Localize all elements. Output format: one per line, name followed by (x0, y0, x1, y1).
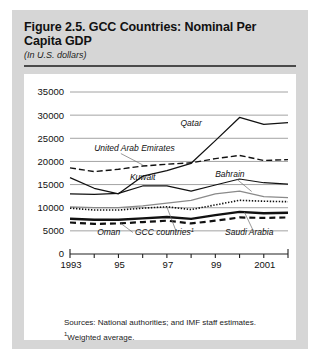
series-label: Kuwait (130, 172, 156, 182)
series-label: GCC countries1 (135, 227, 194, 237)
figure-sources: Sources: National authorities; and IMF s… (64, 318, 300, 343)
series-label: Oman (97, 227, 120, 237)
y-axis-tick-label: 20000 (38, 156, 64, 167)
y-axis-tick-label: 30000 (38, 110, 64, 121)
figure-subtitle: (In U.S. dollars) (24, 50, 296, 61)
sources-line-2: 1Weighted average. (64, 329, 300, 343)
x-axis-tick-label: 1993 (60, 259, 81, 270)
y-axis-tick-label: 25000 (38, 133, 64, 144)
label-leader-line (237, 179, 252, 191)
title-divider (24, 65, 296, 67)
y-axis-tick-label: 10000 (38, 202, 64, 213)
series-line (70, 179, 288, 194)
series-label: Bahrain (215, 169, 245, 179)
y-axis-tick-label: 15000 (38, 179, 64, 190)
x-axis-tick-label: 97 (163, 259, 174, 270)
y-axis-tick-label: 0 (59, 248, 64, 259)
series-label: Saudi Arabia (225, 227, 274, 237)
line-chart: 0500010000150002000025000300003500019939… (24, 74, 296, 340)
figure-card-inner: Figure 2.5. GCC Countries: Nominal Per C… (12, 10, 308, 349)
x-axis-tick-label: 99 (211, 259, 222, 270)
series-label: Qatar (180, 118, 202, 128)
y-axis-tick-label: 5000 (43, 225, 64, 236)
sources-line-1: Sources: National authorities; and IMF s… (64, 318, 300, 329)
y-axis-tick-label: 35000 (38, 86, 64, 97)
figure-card: Figure 2.5. GCC Countries: Nominal Per C… (12, 10, 308, 349)
x-axis-tick-label: 95 (114, 259, 125, 270)
series-line (70, 155, 288, 171)
label-leader-line (121, 154, 143, 165)
footnote-text: Weighted average. (67, 332, 134, 341)
figure-title: Figure 2.5. GCC Countries: Nominal Per C… (24, 20, 296, 48)
x-axis-tick-label: 2001 (254, 259, 275, 270)
series-line (70, 117, 288, 193)
chart-panel: 0500010000150002000025000300003500019939… (24, 74, 296, 340)
series-label: United Arab Emirates (94, 143, 175, 153)
